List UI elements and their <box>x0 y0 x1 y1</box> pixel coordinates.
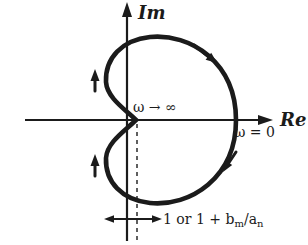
distance-measure-right-arrowhead-icon <box>152 215 162 223</box>
re-axis-label: Re <box>279 109 306 130</box>
distance-measure-left-arrowhead-icon <box>104 215 114 223</box>
direction-arrow-upper-left-icon <box>91 69 100 81</box>
im-axis-arrowhead-icon <box>122 2 132 17</box>
nyquist-plot-canvas: Im Re ω → ∞ ω = 0 1 or 1 + bm/an <box>0 0 308 245</box>
distance-value-part2: /a <box>244 211 257 227</box>
direction-arrow-upper-right-shaft <box>194 45 209 57</box>
im-axis-label: Im <box>137 2 165 23</box>
distance-value-label: 1 or 1 + bm/an <box>163 211 264 229</box>
omega-equals-zero-label: ω = 0 <box>234 124 275 140</box>
omega-to-infinity-label: ω → ∞ <box>133 99 177 115</box>
im-axis <box>122 2 132 241</box>
distance-value-sub-n: n <box>257 218 264 229</box>
direction-arrow-upper-right <box>194 45 217 63</box>
direction-arrow-lower-left-icon <box>91 154 100 166</box>
nyquist-plot-figure: Im Re ω → ∞ ω = 0 1 or 1 + bm/an <box>0 0 308 245</box>
direction-arrow-upper-left <box>91 69 100 91</box>
distance-measure-arrow <box>104 215 162 223</box>
distance-value-part1: 1 or 1 + b <box>163 211 234 227</box>
direction-arrow-lower-left <box>91 154 100 176</box>
